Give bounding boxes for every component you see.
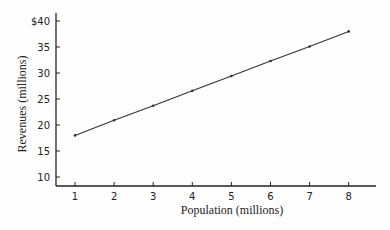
data-point — [152, 104, 155, 107]
y-tick-label: 25 — [37, 94, 50, 105]
x-tick-label: 3 — [150, 191, 156, 202]
data-point — [269, 60, 272, 63]
x-tick-label: 1 — [72, 191, 78, 202]
data-point — [113, 119, 116, 122]
y-tick-label: 15 — [37, 146, 50, 157]
data-point — [308, 45, 311, 48]
data-point — [191, 89, 194, 92]
y-tick-label: 35 — [37, 42, 50, 53]
x-axis-ticks: 12345678 — [72, 182, 352, 202]
data-point — [230, 75, 233, 78]
x-tick-label: 8 — [346, 191, 352, 202]
x-tick-label: 4 — [189, 191, 195, 202]
x-tick-label: 6 — [267, 191, 273, 202]
line-chart: 101520253035$40 12345678 Population (mil… — [0, 0, 390, 230]
y-tick-label: $40 — [31, 16, 50, 27]
y-axis-title: Revenues (millions) — [15, 56, 29, 153]
x-tick-label: 2 — [111, 191, 117, 202]
revenue-line — [75, 31, 349, 135]
data-point — [347, 30, 350, 33]
data-series — [74, 30, 350, 137]
x-axis-title: Population (millions) — [181, 203, 283, 217]
y-tick-label: 30 — [37, 68, 50, 79]
data-point — [74, 134, 77, 137]
x-tick-label: 7 — [306, 191, 312, 202]
y-tick-label: 20 — [37, 120, 50, 131]
x-tick-label: 5 — [228, 191, 234, 202]
y-tick-label: 10 — [37, 172, 50, 183]
